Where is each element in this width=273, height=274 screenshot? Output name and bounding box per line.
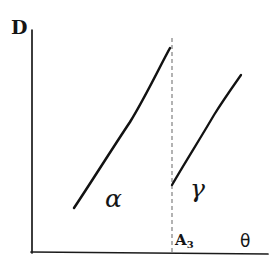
- plot-svg: [0, 0, 273, 274]
- alpha-curve: [74, 48, 170, 208]
- a3-marker-label: A3: [175, 233, 194, 250]
- gamma-curve: [172, 75, 241, 185]
- x-axis-label: θ: [240, 233, 250, 250]
- a3-subscript: 3: [187, 239, 194, 250]
- a3-letter: A: [175, 231, 187, 249]
- alpha-region-label: α: [105, 186, 122, 211]
- gamma-region-label: γ: [190, 176, 205, 201]
- figure-canvas: D θ A3 α γ: [0, 0, 273, 274]
- y-axis-label: D: [11, 18, 27, 37]
- x-axis-line: [31, 252, 268, 254]
